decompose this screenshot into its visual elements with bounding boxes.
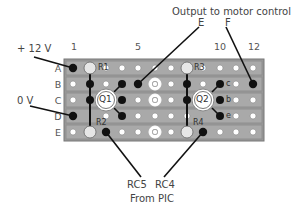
q2-label: Q2 <box>196 95 209 104</box>
stripboard-diagram: + 12 V 0 V Output to motor control E F R… <box>0 0 291 215</box>
output-label: Output to motor control <box>172 7 291 17</box>
col-label-10: 10 <box>214 42 226 52</box>
r4-label: R4 <box>193 119 204 127</box>
pin-c-label: c <box>226 80 230 88</box>
row-label-b: B <box>53 80 63 90</box>
ground-label: 0 V <box>17 96 33 106</box>
col-label-1: 1 <box>71 42 77 52</box>
col-label-5: 5 <box>135 42 141 52</box>
r3-label: R3 <box>194 64 205 72</box>
rc5-label: RC5 <box>127 180 147 190</box>
supply-label: + 12 V <box>17 44 51 54</box>
output-e-label: E <box>198 18 204 28</box>
row-label-c: C <box>53 96 63 106</box>
rc4-label: RC4 <box>155 180 175 190</box>
q1-label: Q1 <box>99 95 112 104</box>
pin-e-label: e <box>226 112 231 120</box>
row-label-a: A <box>53 64 63 74</box>
row-label-e: E <box>53 128 63 138</box>
from-pic-label: From PIC <box>130 194 174 204</box>
row-label-d: D <box>53 112 63 122</box>
output-f-label: F <box>225 18 231 28</box>
r2-label: R2 <box>96 119 107 127</box>
pin-b-label: b <box>226 96 231 104</box>
r1-label: R1 <box>98 64 109 72</box>
col-label-12: 12 <box>248 42 260 52</box>
